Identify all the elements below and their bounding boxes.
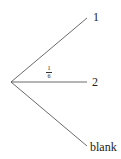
fraction-denominator: 6 xyxy=(46,73,52,79)
branch-1-label: 1 xyxy=(93,11,99,23)
fraction-numerator: 1 xyxy=(46,65,52,71)
branch-blank-line xyxy=(11,82,87,146)
probability-fraction: 1 6 xyxy=(46,65,52,79)
branch-2-label: 2 xyxy=(92,76,98,88)
branch-blank-label: blank xyxy=(90,141,117,153)
tree-diagram xyxy=(0,0,121,159)
